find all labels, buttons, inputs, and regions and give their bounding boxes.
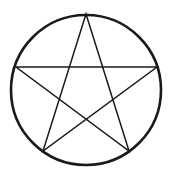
- pentagram-figure: [0, 0, 171, 179]
- pentagram-svg-canvas: [0, 0, 171, 179]
- circumscribed-circle: [11, 15, 161, 165]
